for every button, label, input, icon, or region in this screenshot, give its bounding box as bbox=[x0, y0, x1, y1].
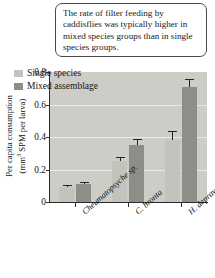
legend-swatch bbox=[14, 70, 23, 77]
error-bar-cap bbox=[168, 131, 177, 132]
bar-single-species bbox=[59, 187, 74, 202]
legend-label: Mixed assemblage bbox=[27, 81, 98, 91]
legend-item-single-species: Single species bbox=[14, 67, 134, 79]
y-tick-mark bbox=[46, 137, 49, 138]
y-tick-mark bbox=[46, 72, 49, 73]
error-bar-cap bbox=[133, 139, 142, 140]
y-tick-label: 0.6 bbox=[34, 100, 46, 110]
y-tick-mark bbox=[46, 202, 49, 203]
error-bar-cap bbox=[63, 185, 72, 186]
legend-label: Single species bbox=[27, 68, 81, 78]
y-axis-title: Per capita consumption (mm3 SPM per larv… bbox=[4, 76, 28, 196]
x-tick-mark bbox=[128, 203, 129, 207]
x-tick-mark bbox=[181, 203, 182, 207]
figure-root: The rate of filter feeding by caddisflie… bbox=[0, 0, 215, 278]
error-bar-cap bbox=[80, 182, 89, 183]
caption-callout: The rate of filter feeding by caddisflie… bbox=[55, 3, 207, 57]
bar-single-species bbox=[165, 140, 180, 202]
error-bar-cap bbox=[116, 157, 125, 158]
legend-swatch bbox=[14, 83, 23, 90]
x-tick-label: H. depravata bbox=[186, 209, 193, 216]
y-axis-title-line1: Per capita consumption bbox=[4, 95, 14, 177]
error-bar-cap bbox=[185, 79, 194, 80]
caption-text: The rate of filter feeding by caddisflie… bbox=[63, 8, 200, 54]
x-tick-label: Cheumatopsyche sp. bbox=[80, 209, 87, 216]
chart-legend: Single speciesMixed assemblage bbox=[14, 67, 134, 93]
error-bar-stem bbox=[189, 79, 190, 86]
bar-mixed-assemblage bbox=[182, 87, 197, 202]
legend-item-mixed-assemblage: Mixed assemblage bbox=[14, 80, 134, 92]
bar-chart: 00.20.40.60.8 Per capita consumption (mm… bbox=[0, 62, 215, 278]
x-tick-mark bbox=[75, 203, 76, 207]
y-tick-label: 0.4 bbox=[34, 132, 46, 142]
y-tick-mark bbox=[46, 170, 49, 171]
y-tick-label: 0.2 bbox=[34, 165, 46, 175]
error-bar-stem bbox=[172, 131, 173, 141]
x-tick-label: C. bronta bbox=[133, 209, 140, 216]
y-axis-title-line2: (mm3 SPM per larva) bbox=[17, 99, 27, 174]
y-tick-mark bbox=[46, 105, 49, 106]
